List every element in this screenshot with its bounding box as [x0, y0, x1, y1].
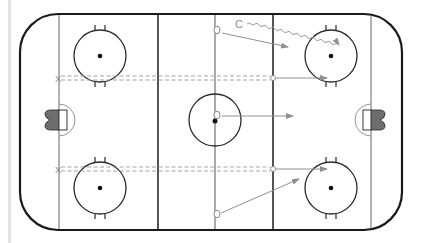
- coach-label: C: [235, 18, 243, 30]
- player-o-center: [214, 111, 220, 119]
- player-o-bottom: [214, 210, 220, 218]
- hockey-rink-diagram: X X C: [0, 0, 433, 243]
- player-o-top: [214, 26, 220, 34]
- player-x-bottom: X: [55, 165, 61, 175]
- player-x-top: X: [55, 74, 61, 84]
- rink-boards: [20, 14, 402, 230]
- puck-marker-bottom: [271, 167, 276, 172]
- puck-marker-top: [271, 76, 276, 81]
